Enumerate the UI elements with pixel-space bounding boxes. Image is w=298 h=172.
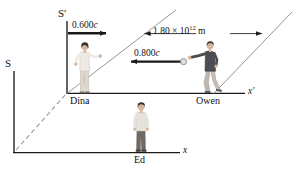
axis-label-x-prime: x′ (248, 87, 254, 97)
person-ed (133, 102, 149, 152)
person-label-dina: Dina (70, 96, 89, 106)
separation-label: 1.80 × 1012 m (153, 27, 206, 37)
frame-label-s-prime: S′ (58, 8, 67, 19)
axis-label-x: x (183, 146, 187, 156)
person-label-ed: Ed (134, 155, 145, 165)
frame-label-s: S (5, 58, 11, 69)
frame-velocity-label: 0.600c (72, 21, 98, 31)
person-label-owen: Owen (196, 96, 220, 106)
physics-diagram: S′ S 0.600c 0.800c 1.80 × 1012 m x′ x Di… (0, 0, 298, 172)
person-owen (188, 41, 222, 93)
ball-velocity-label: 0.800c (134, 49, 160, 59)
person-dina (74, 42, 102, 93)
